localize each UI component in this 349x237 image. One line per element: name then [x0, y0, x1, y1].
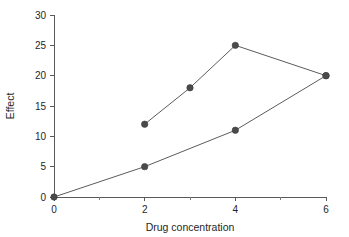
chart-plot-area: 0510152025300246 Drug concentrationEffec…: [0, 0, 349, 237]
tick-labels-group: 0510152025300246: [35, 10, 329, 216]
series-upper-curve: [141, 42, 329, 127]
y-tick-label: 30: [35, 10, 47, 21]
data-point-marker: [232, 127, 238, 133]
series-polyline: [54, 76, 326, 197]
data-point-marker: [232, 42, 238, 48]
series-lower-curve: [51, 72, 329, 200]
y-tick-label: 5: [40, 161, 46, 172]
data-point-marker: [141, 121, 147, 127]
y-tick-label: 0: [40, 192, 46, 203]
x-tick-label: 6: [323, 204, 329, 215]
data-point-marker: [187, 85, 193, 91]
series-polyline: [145, 45, 326, 124]
data-point-marker: [51, 194, 57, 200]
chart-container: 0510152025300246 Drug concentrationEffec…: [0, 0, 349, 237]
data-point-marker: [141, 163, 147, 169]
data-point-marker: [323, 72, 329, 78]
y-axis-title: Effect: [4, 93, 16, 120]
y-tick-label: 15: [35, 101, 47, 112]
x-axis-title: Drug concentration: [146, 221, 235, 233]
x-tick-label: 2: [142, 204, 148, 215]
axis-titles-group: Drug concentrationEffect: [4, 93, 235, 233]
axes-group: [54, 15, 326, 197]
y-tick-label: 10: [35, 131, 47, 142]
x-tick-label: 0: [51, 204, 57, 215]
x-tick-label: 4: [233, 204, 239, 215]
y-tick-label: 25: [35, 40, 47, 51]
data-series-group: [51, 42, 329, 200]
ticks-group: [50, 15, 326, 201]
y-tick-label: 20: [35, 70, 47, 81]
